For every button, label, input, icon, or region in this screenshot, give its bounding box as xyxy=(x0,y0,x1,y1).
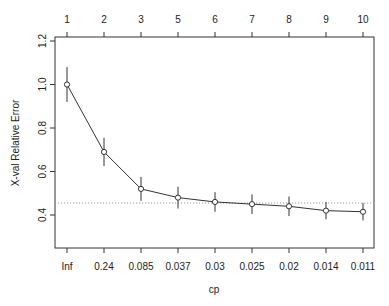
x-axis-title: cp xyxy=(209,284,220,295)
top-tick-label: 6 xyxy=(212,14,218,25)
series-xerror xyxy=(64,67,365,220)
y-tick-label: 0.6 xyxy=(37,164,48,178)
top-tick-label: 8 xyxy=(286,14,292,25)
cp-plot: 0.40.60.81.01.2 Inf0.240.0850.0370.030.0… xyxy=(0,0,389,306)
y-tick-label: 1.2 xyxy=(37,34,48,48)
y-tick-label: 1.0 xyxy=(37,77,48,91)
top-tick-label: 1 xyxy=(64,14,70,25)
top-tick-label: 10 xyxy=(357,14,369,25)
top-tick-label: 2 xyxy=(101,14,107,25)
y-tick-label: 0.4 xyxy=(37,208,48,222)
data-point xyxy=(101,149,106,154)
top-tick-label: 3 xyxy=(138,14,144,25)
data-point xyxy=(286,204,291,209)
x-tick-label: 0.24 xyxy=(94,261,114,272)
x-tick-label: 0.025 xyxy=(239,261,264,272)
x-tick-label: 0.011 xyxy=(351,261,376,272)
x-tick-label: 0.085 xyxy=(128,261,153,272)
data-point xyxy=(138,186,143,191)
top-tick-label: 7 xyxy=(249,14,255,25)
top-tick-label: 9 xyxy=(323,14,329,25)
data-point xyxy=(323,208,328,213)
data-point xyxy=(249,202,254,207)
data-point xyxy=(175,195,180,200)
data-point xyxy=(212,199,217,204)
x-axis-bottom: Inf0.240.0850.0370.030.0250.020.0140.011 xyxy=(61,248,375,272)
x-tick-label: 0.037 xyxy=(165,261,190,272)
top-tick-label: 5 xyxy=(175,14,181,25)
x-tick-label: Inf xyxy=(61,261,72,272)
x-tick-label: 0.02 xyxy=(279,261,299,272)
y-axis-title: X-val Relative Error xyxy=(10,99,21,186)
y-axis: 0.40.60.81.01.2 xyxy=(37,34,55,222)
x-tick-label: 0.014 xyxy=(313,261,338,272)
x-axis-top: 1235678910 xyxy=(64,14,369,37)
data-point xyxy=(64,82,69,87)
y-tick-label: 0.8 xyxy=(37,121,48,135)
x-tick-label: 0.03 xyxy=(205,261,225,272)
data-point xyxy=(360,209,365,214)
